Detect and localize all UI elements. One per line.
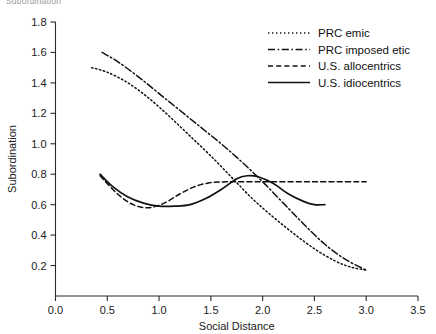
y-tick-label: 0.4 [31, 229, 46, 241]
y-tick-label: 1.8 [31, 16, 46, 28]
x-tick-label: 1.5 [203, 304, 218, 316]
y-tick-label: 0.8 [31, 168, 46, 180]
x-tick-label: 3.5 [410, 304, 425, 316]
series-line [92, 68, 366, 270]
legend-label: PRC emic [318, 27, 370, 39]
x-tick-label: 2.5 [307, 304, 322, 316]
line-chart-canvas: 0.20.40.60.81.01.21.41.61.80.00.51.01.52… [0, 0, 436, 334]
y-tick-label: 1.4 [31, 77, 46, 89]
x-tick-label: 3.0 [359, 304, 374, 316]
series-line [100, 174, 325, 206]
x-tick-label: 0.0 [48, 304, 63, 316]
chart-figure: Subordination 0.20.40.60.81.01.21.41.61.… [0, 0, 436, 334]
x-axis-title: Social Distance [199, 320, 275, 332]
y-tick-label: 0.2 [31, 260, 46, 272]
legend-label: PRC imposed etic [318, 44, 410, 56]
legend-label: U.S. idiocentrics [318, 77, 401, 89]
x-tick-label: 1.0 [151, 304, 166, 316]
x-tick-label: 2.0 [255, 304, 270, 316]
y-tick-label: 1.6 [31, 46, 46, 58]
y-tick-label: 1.0 [31, 138, 46, 150]
y-tick-label: 1.2 [31, 107, 46, 119]
legend-label: U.S. allocentrics [318, 60, 401, 72]
x-tick-label: 0.5 [100, 304, 115, 316]
y-axis-title: Subordination [6, 125, 18, 193]
y-tick-label: 0.6 [31, 199, 46, 211]
legend-layer: PRC emicPRC imposed eticU.S. allocentric… [268, 27, 410, 89]
